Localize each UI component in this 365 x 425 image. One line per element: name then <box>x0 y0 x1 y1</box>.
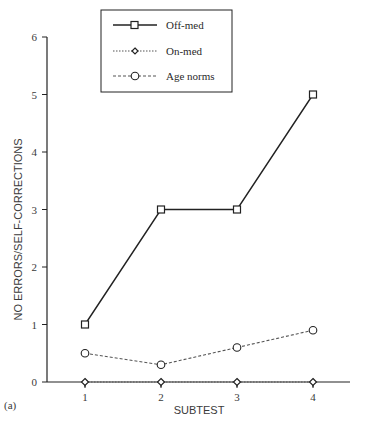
y-tick-label: 5 <box>32 89 38 101</box>
data-point-marker <box>310 91 317 98</box>
x-tick-label: 2 <box>158 391 164 403</box>
series-age-norms <box>81 326 317 368</box>
legend-label: Off-med <box>166 19 204 31</box>
data-point-marker <box>234 379 241 386</box>
y-axis-title: NO ERRORS/SELF-CORRECTIONS <box>12 138 24 320</box>
data-point-marker <box>309 326 317 334</box>
data-point-marker <box>81 349 89 357</box>
series-on-med <box>82 379 317 389</box>
y-tick-label: 1 <box>32 319 38 331</box>
y-tick-label: 0 <box>32 376 38 388</box>
data-point-marker <box>82 379 89 386</box>
data-point-marker <box>158 379 165 386</box>
y-tick-label: 6 <box>32 31 38 43</box>
panel-label: (a) <box>4 399 17 412</box>
data-point-marker <box>310 379 317 386</box>
legend-label: On-med <box>166 45 203 57</box>
x-tick-label: 4 <box>310 391 316 403</box>
x-tick-label: 1 <box>82 391 88 403</box>
data-point-marker <box>82 321 89 328</box>
legend-marker-circle <box>131 72 139 80</box>
y-tick-label: 2 <box>32 261 38 273</box>
legend: Off-medOn-medAge norms <box>101 10 232 92</box>
x-tick-label: 3 <box>234 391 240 403</box>
series-off-med <box>82 91 317 328</box>
data-point-marker <box>158 206 165 213</box>
data-point-marker <box>234 206 241 213</box>
y-tick-label: 4 <box>32 146 38 158</box>
legend-label: Age norms <box>166 70 215 82</box>
data-point-marker <box>233 344 241 352</box>
chart-svg: 01234561234SUBTESTNO ERRORS/SELF-CORRECT… <box>0 0 365 425</box>
legend-marker-square <box>131 22 138 29</box>
series-line <box>85 330 313 365</box>
y-tick-label: 3 <box>32 204 38 216</box>
data-point-marker <box>157 361 165 369</box>
x-axis-title: SUBTEST <box>174 404 225 416</box>
series-line <box>85 95 313 325</box>
